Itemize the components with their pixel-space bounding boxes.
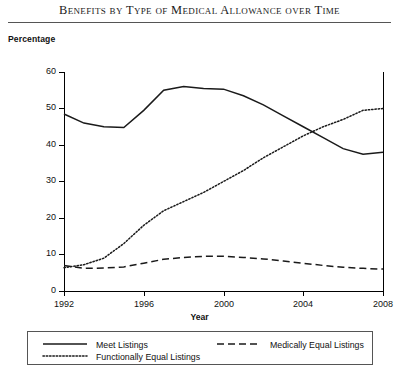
legend-sample-meet-listings <box>42 339 88 349</box>
x-tick-2004 <box>303 291 304 296</box>
y-axis-title: Percentage <box>8 34 55 44</box>
y-tick-20 <box>59 218 64 219</box>
y-axis-line <box>64 72 65 292</box>
legend-sample-functionally-equal-listings <box>42 351 88 361</box>
y-tick-label-20: 20 <box>46 212 56 222</box>
x-tick-1996 <box>144 291 145 296</box>
y-tick-label-0: 0 <box>51 285 56 295</box>
x-tick-label-2000: 2000 <box>214 299 234 309</box>
x-tick-label-2004: 2004 <box>293 299 313 309</box>
y-tick-label-40: 40 <box>46 139 56 149</box>
series-line-medically-equal-listings <box>64 256 383 269</box>
right-axis-line <box>383 72 384 292</box>
series-line-meet-listings <box>64 87 383 155</box>
chart-legend: Meet Listings Medically Equal Listings F… <box>27 331 373 365</box>
x-tick-label-1992: 1992 <box>54 299 74 309</box>
y-tick-label-50: 50 <box>46 102 56 112</box>
title-divider <box>8 22 391 23</box>
x-tick-label-2008: 2008 <box>373 299 393 309</box>
x-axis-title: Year <box>0 312 399 322</box>
y-tick-label-30: 30 <box>46 175 56 185</box>
x-tick-1992 <box>64 291 65 296</box>
y-tick-60 <box>59 72 64 73</box>
legend-label-medically-equal-listings: Medically Equal Listings <box>270 340 364 350</box>
chart-figure: Benefits by Type of Medical Allowance ov… <box>0 0 399 368</box>
y-tick-40 <box>59 145 64 146</box>
chart-title: Benefits by Type of Medical Allowance ov… <box>0 3 399 18</box>
y-tick-10 <box>59 254 64 255</box>
series-line-functionally-equal-listings <box>64 109 383 268</box>
x-tick-label-1996: 1996 <box>134 299 154 309</box>
x-tick-2008 <box>383 291 384 296</box>
x-tick-2000 <box>224 291 225 296</box>
legend-label-meet-listings: Meet Listings <box>96 340 148 350</box>
y-tick-30 <box>59 181 64 182</box>
legend-label-functionally-equal-listings: Functionally Equal Listings <box>96 352 200 362</box>
y-tick-50 <box>59 108 64 109</box>
legend-sample-medically-equal-listings <box>216 339 262 349</box>
y-tick-label-60: 60 <box>46 66 56 76</box>
y-tick-label-10: 10 <box>46 248 56 258</box>
